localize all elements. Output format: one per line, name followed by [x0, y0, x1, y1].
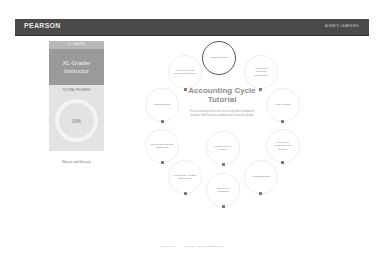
node-analyze-journalize[interactable]: Analyze and Journalize Transactions	[244, 55, 278, 89]
left-panel: XL-GRADER XL-Grader Instructor TUTORIAL …	[49, 41, 104, 164]
node-prepare-worksheet[interactable]: Prepare the Worksheet	[206, 173, 240, 207]
node-unadjusted-trial-balance[interactable]: Prepare the Unadjusted Trial Balance	[266, 129, 300, 163]
node-adjusted-trial-balance[interactable]: Prepare the Adjusted Trial Balance	[168, 160, 202, 194]
node-post-closing-trial-balance[interactable]: Prepare the Post-Closing Trial Balance	[168, 55, 202, 89]
lock-icon	[222, 205, 225, 208]
glossary-link[interactable]: Manual and Glossary	[49, 160, 104, 164]
footer: Privacy Policy Copyright © 2015 Pearson …	[0, 245, 384, 248]
panel-label: XL-GRADER	[49, 41, 104, 49]
lock-icon	[281, 161, 284, 164]
top-header: PEARSON ALWAYS LEARNING	[15, 19, 369, 36]
lock-icon	[161, 161, 164, 164]
lock-icon	[161, 120, 164, 123]
lock-icon	[259, 88, 262, 91]
progress-box: TUTORIAL PROGRESS 0%	[49, 85, 104, 151]
lock-icon	[259, 192, 262, 195]
privacy-policy-link[interactable]: Privacy Policy	[160, 245, 175, 248]
node-closing-entries[interactable]: Closing Entries	[145, 88, 179, 122]
lock-icon	[184, 192, 187, 195]
progress-ring: 0%	[55, 99, 98, 142]
page-description: The accounting cycle is the process by w…	[186, 110, 258, 118]
course-title: XL-Grader Instructor	[49, 49, 104, 85]
pearson-logo[interactable]: PEARSON	[24, 22, 61, 29]
copyright-text: Copyright © 2015 Pearson Education	[184, 245, 224, 248]
node-adjusting-entries[interactable]: Adjusting Entries	[244, 160, 278, 194]
progress-title: TUTORIAL PROGRESS	[49, 89, 104, 92]
lock-icon	[281, 120, 284, 123]
node-post-to-ledger[interactable]: Post to Ledger	[266, 88, 300, 122]
page-title: Accounting Cycle Tutorial	[186, 86, 258, 104]
progress-percent: 0%	[72, 118, 81, 124]
node-financial-statements[interactable]: Prepare the Financial Statements	[145, 129, 179, 163]
lock-icon	[184, 88, 187, 91]
lock-icon	[222, 163, 225, 166]
node-account-balances[interactable]: Account Balances	[202, 41, 236, 75]
tagline: ALWAYS LEARNING	[325, 24, 359, 28]
node-comprehensive-problem[interactable]: Comprehensive Problem	[206, 131, 240, 165]
